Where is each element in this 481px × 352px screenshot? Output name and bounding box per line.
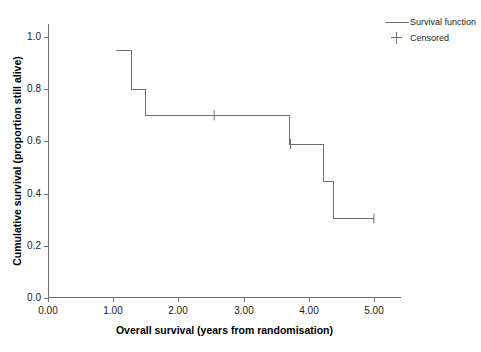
line-swatch-icon bbox=[384, 15, 410, 29]
x-tick-label: 4.00 bbox=[289, 305, 329, 316]
y-tick-mark bbox=[44, 37, 48, 38]
y-tick-mark bbox=[44, 194, 48, 195]
survival-step-line bbox=[116, 50, 373, 218]
x-tick-mark bbox=[178, 298, 179, 302]
y-axis-title: Cumulative survival (proportion still al… bbox=[11, 24, 27, 298]
x-tick-mark bbox=[309, 298, 310, 302]
y-tick-mark bbox=[44, 246, 48, 247]
x-tick-label: 2.00 bbox=[158, 305, 198, 316]
y-tick-label: 0.6 bbox=[27, 135, 41, 146]
x-tick-mark bbox=[374, 298, 375, 302]
y-tick-label: 1.0 bbox=[27, 31, 41, 42]
x-tick-mark bbox=[244, 298, 245, 302]
y-tick-mark bbox=[44, 89, 48, 90]
legend-item-censored: Censored bbox=[384, 30, 480, 46]
y-tick-label: 0.4 bbox=[27, 188, 41, 199]
plus-marker-icon bbox=[384, 31, 410, 45]
legend-item-survival-function: Survival function bbox=[384, 14, 480, 30]
x-tick-label: 3.00 bbox=[224, 305, 264, 316]
y-tick-label: 0.8 bbox=[27, 83, 41, 94]
survival-curve bbox=[48, 24, 400, 298]
x-tick-mark bbox=[113, 298, 114, 302]
x-tick-label: 0.00 bbox=[28, 305, 68, 316]
chart-page: 0.00.20.40.60.81.0 0.001.002.003.004.005… bbox=[0, 0, 481, 352]
x-tick-label: 1.00 bbox=[93, 305, 133, 316]
y-tick-label: 0.0 bbox=[27, 292, 41, 303]
legend-label-survival-function: Survival function bbox=[410, 17, 476, 27]
x-tick-label: 5.00 bbox=[354, 305, 394, 316]
x-axis-title: Overall survival (years from randomisati… bbox=[48, 324, 401, 336]
y-tick-mark bbox=[44, 141, 48, 142]
plot-area bbox=[48, 24, 400, 298]
legend-label-censored: Censored bbox=[410, 33, 449, 43]
chart-legend: Survival function Censored bbox=[384, 14, 480, 46]
y-tick-label: 0.2 bbox=[27, 240, 41, 251]
x-tick-mark bbox=[48, 298, 49, 302]
